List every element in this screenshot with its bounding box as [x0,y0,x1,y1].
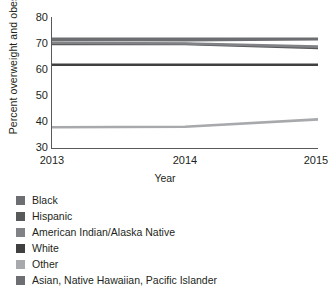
series-lines [52,18,318,148]
legend-item[interactable]: Asian, Native Hawaiian, Pacific Islander [0,272,330,288]
chart-figure: Percent overweight and obese 80 70 60 50… [0,0,330,296]
y-tick-label: 60 [22,64,48,75]
legend-swatch-icon [16,276,25,285]
y-tick-label: 30 [22,142,48,153]
legend-item[interactable]: Hispanic [0,208,330,224]
y-tick-label: 80 [22,12,48,23]
legend-label: Other [32,258,58,270]
plot-area [52,18,318,148]
y-tick-label: 70 [22,38,48,49]
legend-swatch-icon [16,260,25,269]
legend-label: American Indian/Alaska Native [32,226,175,238]
x-axis-title: Year [0,172,330,184]
line-chart: Percent overweight and obese 80 70 60 50… [0,0,330,190]
y-tick-label: 40 [22,116,48,127]
legend-label: Hispanic [32,210,72,222]
legend-item[interactable]: White [0,240,330,256]
series-line [52,39,318,40]
chart-legend: Black Hispanic American Indian/Alaska Na… [0,192,330,288]
legend-item[interactable]: Black [0,192,330,208]
x-tick-label: 2015 [296,154,330,166]
legend-swatch-icon [16,212,25,221]
legend-swatch-icon [16,244,25,253]
legend-label: Black [32,194,58,206]
legend-item[interactable]: Other [0,256,330,272]
y-tick-label: 50 [22,90,48,101]
legend-label: White [32,242,59,254]
legend-swatch-icon [16,196,25,205]
legend-label: Asian, Native Hawaiian, Pacific Islander [32,274,217,286]
series-line [52,119,318,127]
legend-item[interactable]: American Indian/Alaska Native [0,224,330,240]
legend-swatch-icon [16,228,25,237]
x-tick-label: 2014 [165,154,205,166]
x-tick-label: 2013 [32,154,72,166]
